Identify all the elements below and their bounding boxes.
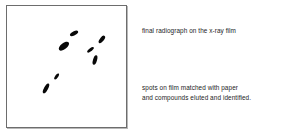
- caption-bottom-line-1: spots on film matched with paper: [142, 83, 251, 93]
- caption-top: final radiograph on the x-ray film: [142, 26, 236, 36]
- spot-6-icon: [53, 72, 60, 80]
- spot-5-icon: [92, 55, 99, 66]
- spot-4-icon: [86, 46, 94, 53]
- spot-7-icon: [41, 82, 50, 94]
- caption-top-line: final radiograph on the x-ray film: [142, 26, 236, 36]
- spot-1-icon: [69, 29, 79, 37]
- caption-bottom: spots on film matched with paper and com…: [142, 83, 251, 102]
- spot-2-icon: [57, 40, 70, 52]
- spot-3-icon: [98, 35, 106, 44]
- x-ray-film-panel: [6, 5, 127, 128]
- figure-canvas: final radiograph on the x-ray film spots…: [0, 0, 282, 137]
- caption-bottom-line-2: and compounds eluted and identified.: [142, 93, 251, 103]
- film-surface: [7, 6, 126, 127]
